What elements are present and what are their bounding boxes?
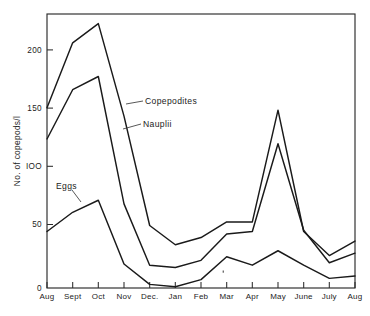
series-annotation-copepodites: Copepodites (145, 96, 197, 106)
x-tick-label-mar: Mar (220, 292, 235, 301)
chart-figure: 200 150 IOO 50 0 No. of copepods/l Au (0, 0, 370, 316)
y-axis-title: No. of copepods/l (12, 116, 22, 186)
x-tick-label-nov: Nov (117, 292, 132, 301)
x-tick-label-feb: Feb (194, 292, 209, 301)
plot-frame (47, 14, 355, 288)
print-speck-artifact (223, 271, 224, 273)
y-tick-label-50: 50 (32, 220, 42, 229)
x-tick-label-aug-2: Aug (348, 292, 363, 301)
copepod-abundance-line-chart: 200 150 IOO 50 0 No. of copepods/l Au (0, 0, 370, 316)
series-annotation-eggs: Eggs (56, 181, 77, 191)
leader-line-copepodites (126, 101, 143, 104)
x-axis-tick-labels: Aug Sept Oct Nov Dec. Jan Feb Mar Apr Ma… (40, 292, 363, 301)
series-annotation-nauplii: Nauplii (143, 119, 172, 129)
series-line-eggs (47, 200, 355, 287)
x-tick-label-aug-1: Aug (40, 292, 55, 301)
x-tick-label-jan: Jan (169, 292, 183, 301)
series-line-copepodites (47, 24, 355, 256)
x-axis-ticks (47, 282, 355, 288)
x-tick-label-june: June (295, 292, 313, 301)
series-line-nauplii (47, 76, 355, 267)
y-tick-label-150: 150 (27, 104, 42, 113)
x-tick-label-may: May (270, 292, 286, 301)
y-tick-label-100: IOO (26, 162, 42, 171)
x-tick-label-dec: Dec. (141, 292, 158, 301)
y-tick-label-200: 200 (27, 46, 42, 55)
x-tick-label-sept: Sept (64, 292, 82, 301)
y-axis-tick-labels: 200 150 IOO 50 0 (26, 46, 42, 293)
x-tick-label-oct: Oct (92, 292, 106, 301)
leader-line-eggs (72, 190, 81, 202)
x-tick-label-july: July (322, 292, 337, 301)
x-tick-label-apr: Apr (246, 292, 259, 301)
data-series-group (47, 24, 355, 287)
